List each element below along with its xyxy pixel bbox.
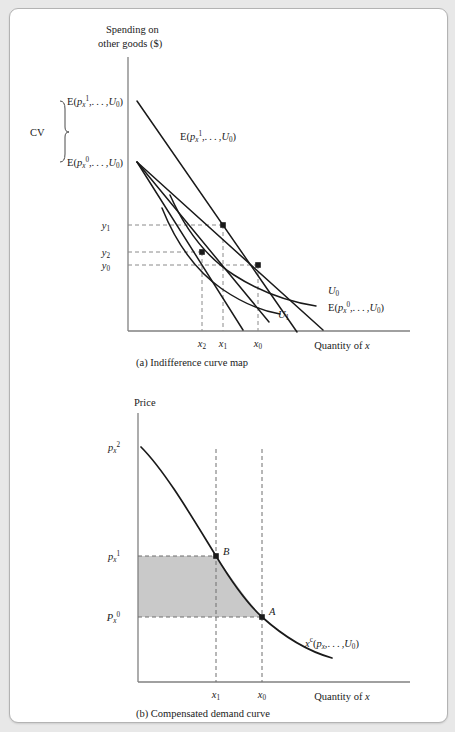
panel-a-group: Spending on other goods ($) CV E(px1,. .… [30,24,410,369]
panel-b-caption: (b) Compensated demand curve [136,708,270,720]
svg-text:E(px0,. . . ,U0): E(px0,. . . ,U0) [67,156,124,170]
panel-a-x-axis-title: Quantity of x [314,340,370,351]
panel-b-ytick-p1x: px1 [107,550,120,564]
panel-a-budget-label-inner: E(px1,. . . ,U0) [180,130,237,144]
panel-a-caption: (a) Indifference curve map [136,357,248,369]
tangency-point-x1 [220,222,226,228]
indifference-label-u0: U0 [328,285,340,298]
cv-brace [60,101,69,162]
panel-b-xtick-x0: x0 [257,689,267,702]
panel-a-xtick-x1: x1 [218,338,228,351]
expenditure-high-label: E(px1,. . . ,U0) [67,95,124,109]
cv-label: CV [30,127,45,138]
panel-a-y-axis-title-line2: other goods ($) [98,38,163,50]
compensated-demand-curve-label: xc(px,. . . ,U0) [304,636,359,651]
panel-a-ytick-y1: y1 [101,220,111,233]
indifference-label-u1: U1 [278,309,290,322]
tangency-point-x2 [199,249,205,255]
panel-b-y-axis-title: Price [134,397,156,408]
figure-page: Spending on other goods ($) CV E(px1,. .… [9,8,448,723]
panel-b-group: Price B A px2 px1 Px0 [106,397,410,720]
panel-a-xtick-x0: x0 [253,338,263,351]
budget-line-uncompensated-high [137,162,243,330]
figure-container: Spending on other goods ($) CV E(px1,. .… [10,9,447,722]
demand-point-b-marker [213,553,219,559]
svg-text:E(px1,. . . ,U0): E(px1,. . . ,U0) [67,95,124,109]
panel-a-ytick-y2: y2 [101,247,111,260]
panel-b-x-axis-title: Quantity of x [314,691,370,702]
panel-a-budget-label-outer: E(px0,. . . ,U0) [328,301,385,315]
demand-point-a-label: A [268,606,276,617]
demand-point-b-label: B [223,546,230,557]
compensating-variation-shaded-area [138,556,216,617]
demand-point-a-marker [259,614,265,620]
tangency-point-x0 [255,262,261,268]
budget-line-original [137,162,323,330]
economics-figure-svg: Spending on other goods ($) CV E(px1,. .… [10,9,447,722]
compensated-demand-curve [141,447,332,658]
compensating-variation-shaded-wedge [216,556,262,617]
budget-line-intermediate [137,162,269,322]
panel-a-xtick-x2: x2 [197,338,207,351]
svg-text:E(px1,. . . ,U0): E(px1,. . . ,U0) [180,130,237,144]
panel-a-ytick-y0: y0 [101,260,111,273]
panel-b-ytick-p2x: px2 [107,441,120,455]
svg-text:xc(px,. . . ,U0): xc(px,. . . ,U0) [304,636,359,651]
panel-b-xtick-x1: x1 [211,689,221,702]
svg-text:E(px0,. . . ,U0): E(px0,. . . ,U0) [328,301,385,315]
panel-a-y-axis-title-line1: Spending on [106,24,160,35]
expenditure-low-label: E(px0,. . . ,U0) [67,156,124,170]
panel-b-ytick-p0x: Px0 [106,611,121,625]
